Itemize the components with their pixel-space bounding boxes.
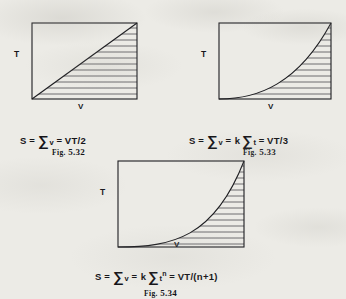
formula-equals-2: = (225, 135, 231, 146)
summation-subscript-1: v (219, 138, 223, 147)
caption-prefix: Fig. (243, 148, 257, 157)
x-axis-label-5-34: V (174, 240, 180, 249)
caption-5-34: Fig. 5.34 (144, 288, 177, 298)
figure-5-34: T V S=∑v=k∑tn=VT/(n+1) Fig. 5.34 (117, 160, 245, 248)
caption-number: 5.34 (160, 288, 177, 298)
caption-prefix: Fig. (52, 148, 66, 157)
formula-equals-2: = (131, 271, 137, 282)
caption-number: 5.33 (259, 147, 276, 157)
formula-equals-2: = (56, 135, 62, 146)
caption-prefix: Fig. (144, 289, 158, 298)
formula-lhs: S (20, 135, 27, 146)
y-axis-label-5-32: T (14, 49, 19, 59)
x-axis-label-5-32: V (78, 102, 84, 111)
summation-symbol-2: ∑ (242, 132, 253, 149)
formula-equals-3: = (259, 135, 265, 146)
summation-subscript-2: t (253, 138, 256, 147)
formula-lhs: S (95, 271, 102, 282)
formula-equals-3: = (169, 271, 175, 282)
formula-equals-1: = (29, 135, 35, 146)
caption-number: 5.32 (68, 147, 85, 157)
plot-area-5-33: T V (218, 22, 332, 100)
formula-coefficient: k (235, 135, 241, 146)
formula-rhs: VT/(n+1) (178, 271, 218, 282)
summation-subscript-1: v (125, 274, 129, 283)
formula-lhs: S (189, 135, 196, 146)
figure-5-32: T V S=∑v=VT/2 Fig. 5.32 (31, 22, 138, 100)
summation-subscript: v (50, 138, 54, 147)
formula-5-32: S=∑v=VT/2 (20, 130, 86, 147)
y-axis-label-5-34: T (100, 187, 105, 197)
plot-area-5-32: T V (31, 22, 138, 100)
caption-5-32: Fig. 5.32 (52, 147, 85, 157)
plot-area-5-34: T V (117, 160, 245, 248)
summation-exponent: n (162, 270, 167, 277)
summation-symbol: ∑ (38, 132, 49, 149)
figure-5-33: T V S=∑v=k∑t=VT/3 Fig. 5.33 (218, 22, 332, 100)
diagram-5-33-quadratic-area (218, 22, 332, 100)
formula-equals-1: = (198, 135, 204, 146)
summation-symbol-1: ∑ (207, 132, 218, 149)
summation-symbol-2: ∑ (148, 268, 159, 285)
formula-equals-1: = (104, 271, 110, 282)
caption-5-33: Fig. 5.33 (243, 147, 276, 157)
formula-coefficient: k (141, 271, 147, 282)
formula-rhs: VT/2 (65, 135, 86, 146)
x-axis-label-5-33: V (268, 102, 274, 111)
formula-5-34: S=∑v=k∑tn=VT/(n+1) (95, 266, 218, 283)
diagram-5-32-linear-area (31, 22, 138, 100)
formula-5-33: S=∑v=k∑t=VT/3 (189, 130, 288, 147)
formula-rhs: VT/3 (267, 135, 288, 146)
summation-symbol-1: ∑ (113, 268, 124, 285)
diagram-5-34-power-area (117, 160, 245, 248)
y-axis-label-5-33: T (201, 49, 206, 59)
